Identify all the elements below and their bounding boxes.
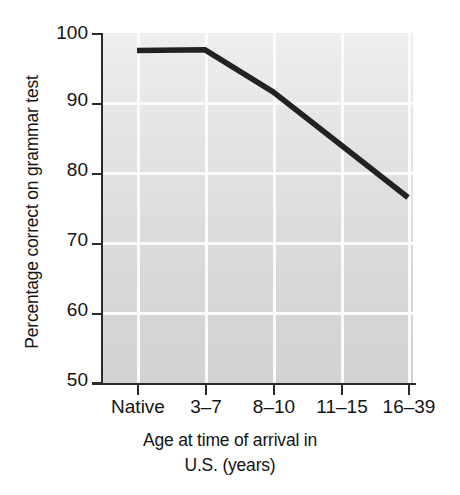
y-tick-label-50: 50 bbox=[42, 370, 88, 389]
x-tick-mark-3-7 bbox=[205, 385, 207, 395]
x-axis-spine bbox=[92, 383, 416, 385]
y-tick-label-70: 70 bbox=[42, 230, 88, 249]
y-tick-mark-70 bbox=[92, 243, 102, 245]
data-series-line bbox=[103, 33, 413, 383]
y-tick-mark-100 bbox=[92, 33, 102, 35]
y-tick-label-80: 80 bbox=[42, 160, 88, 179]
x-tick-mark-16-39 bbox=[408, 385, 410, 395]
x-axis-title: Age at time of arrival in U.S. (years) bbox=[0, 428, 460, 478]
y-tick-mark-60 bbox=[92, 313, 102, 315]
x-tick-mark-8-10 bbox=[273, 385, 275, 395]
y-axis-tick-labels: 100 90 80 70 60 50 bbox=[42, 0, 88, 495]
x-axis-title-line2: U.S. (years) bbox=[0, 453, 460, 478]
y-tick-label-100: 100 bbox=[42, 23, 88, 42]
y-tick-mark-90 bbox=[92, 103, 102, 105]
x-tick-label-16-39: 16–39 bbox=[364, 396, 454, 418]
y-tick-label-60: 60 bbox=[42, 300, 88, 319]
x-tick-mark-11-15 bbox=[341, 385, 343, 395]
y-tick-mark-80 bbox=[92, 173, 102, 175]
plot-area bbox=[103, 33, 413, 383]
chart-figure: Percentage correct on grammar test 100 9… bbox=[0, 0, 460, 495]
x-tick-mark-native bbox=[137, 385, 139, 395]
y-tick-label-90: 90 bbox=[42, 90, 88, 109]
x-axis-title-line1: Age at time of arrival in bbox=[0, 428, 460, 453]
